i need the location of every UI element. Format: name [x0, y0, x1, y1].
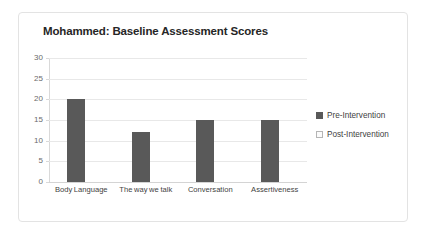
bar-group [178, 58, 243, 182]
x-axis-label: The way we talk [114, 185, 179, 195]
y-axis-tick-mark [46, 79, 49, 80]
x-axis-label: Body Language [49, 185, 114, 195]
plot-area: 051015202530 [49, 58, 307, 182]
y-axis-tick-label: 25 [34, 75, 43, 83]
chart-frame: Mohammed: Baseline Assessment Scores 051… [18, 12, 408, 222]
y-axis-tick-mark [46, 182, 49, 183]
bar-group [114, 58, 179, 182]
chart-legend: Pre-Intervention Post-Intervention [316, 108, 408, 146]
y-axis-tick-label: 5 [39, 157, 43, 165]
legend-label-post-intervention: Post-Intervention [327, 130, 389, 139]
bar[interactable] [132, 132, 150, 182]
y-axis-tick-label: 20 [34, 95, 43, 103]
gridline [49, 182, 307, 183]
y-axis-tick-label: 15 [34, 116, 43, 124]
y-axis-tick-label: 30 [34, 54, 43, 62]
legend-item-post-intervention[interactable]: Post-Intervention [316, 127, 408, 141]
y-axis-tick-label: 0 [39, 178, 43, 186]
legend-swatch-outlined-square-icon [316, 131, 323, 138]
y-axis-tick-mark [46, 141, 49, 142]
bar-group [243, 58, 308, 182]
legend-label-pre-intervention: Pre-Intervention [327, 111, 385, 120]
chart-title: Mohammed: Baseline Assessment Scores [43, 25, 268, 37]
legend-swatch-filled-square-icon [316, 112, 323, 119]
y-axis-tick-mark [46, 58, 49, 59]
y-axis-tick-mark [46, 99, 49, 100]
x-axis-label: Assertiveness [243, 185, 308, 195]
bar[interactable] [67, 99, 85, 182]
legend-item-pre-intervention[interactable]: Pre-Intervention [316, 108, 408, 122]
bar[interactable] [261, 120, 279, 182]
bar[interactable] [196, 120, 214, 182]
bar-group [49, 58, 114, 182]
x-axis-label: Conversation [178, 185, 243, 195]
y-axis-tick-mark [46, 161, 49, 162]
x-axis-labels: Body LanguageThe way we talkConversation… [49, 185, 307, 219]
y-axis-tick-label: 10 [34, 137, 43, 145]
y-axis-tick-mark [46, 120, 49, 121]
